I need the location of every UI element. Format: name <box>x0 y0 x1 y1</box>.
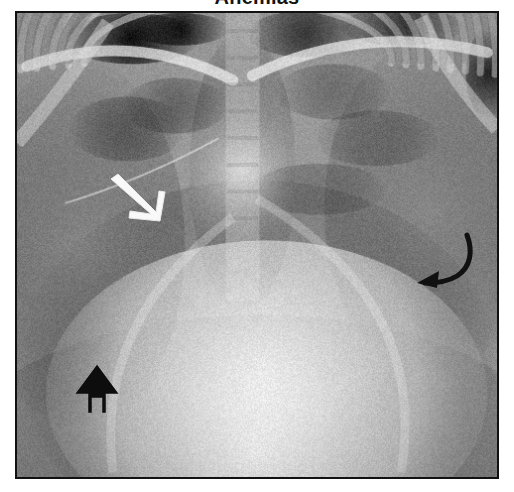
page-title: Anemias <box>0 0 514 7</box>
figure-root: Anemias <box>0 0 514 492</box>
chest-radiograph-image <box>17 13 497 477</box>
xray-image-frame <box>15 11 499 479</box>
figure-title-clip: Anemias <box>0 0 514 9</box>
